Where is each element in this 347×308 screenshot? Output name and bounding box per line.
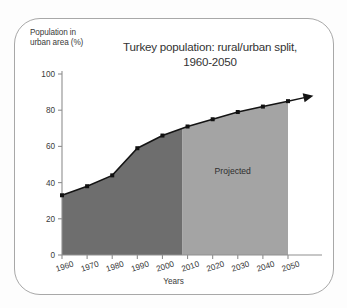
data-point-marker bbox=[160, 134, 164, 138]
chart-annotations: Projected bbox=[215, 166, 252, 176]
data-point-marker bbox=[261, 105, 265, 109]
y-axis-ticks: 020406080100 bbox=[41, 70, 62, 260]
area-projected bbox=[183, 101, 288, 255]
x-tick-label: 2010 bbox=[180, 259, 201, 273]
area-observed bbox=[62, 128, 183, 255]
x-tick-label: 2020 bbox=[205, 259, 226, 273]
data-point-marker bbox=[85, 184, 89, 188]
x-axis-label: Years bbox=[0, 277, 347, 286]
chart-figure: Population in urban area (%) Turkey popu… bbox=[0, 0, 347, 308]
x-tick-label: 1980 bbox=[105, 259, 126, 273]
data-point-marker bbox=[186, 124, 190, 128]
y-tick-label: 100 bbox=[41, 70, 55, 79]
data-point-marker bbox=[135, 146, 139, 150]
y-tick-label: 20 bbox=[46, 215, 56, 224]
x-tick-label: 2030 bbox=[230, 259, 251, 273]
data-point-marker bbox=[211, 117, 215, 121]
y-tick-label: 80 bbox=[46, 106, 56, 115]
y-tick-label: 0 bbox=[50, 251, 55, 260]
data-point-marker bbox=[110, 173, 114, 177]
y-tick-label: 40 bbox=[46, 179, 56, 188]
plot-area: 020406080100 196019701980199020002010202… bbox=[0, 0, 347, 308]
x-tick-label: 1960 bbox=[55, 259, 76, 273]
x-tick-label: 2040 bbox=[256, 259, 277, 273]
x-tick-label: 1970 bbox=[80, 259, 101, 273]
x-tick-label: 2000 bbox=[155, 259, 176, 273]
x-axis-ticks: 1960197019801990200020102020203020402050 bbox=[55, 255, 302, 274]
area-regions bbox=[62, 101, 288, 255]
data-point-marker bbox=[60, 193, 64, 197]
data-point-marker bbox=[286, 99, 290, 103]
trend-arrowhead bbox=[303, 93, 314, 102]
x-tick-label: 2050 bbox=[281, 259, 302, 273]
data-point-marker bbox=[236, 110, 240, 114]
x-tick-label: 1990 bbox=[130, 259, 151, 273]
y-tick-label: 60 bbox=[46, 142, 56, 151]
projected-label: Projected bbox=[215, 166, 252, 176]
